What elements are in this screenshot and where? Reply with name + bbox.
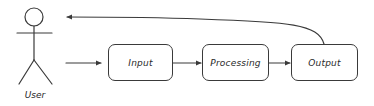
node-processing-label: Processing bbox=[210, 58, 260, 68]
node-output[interactable]: Output bbox=[291, 44, 358, 81]
actor-left-leg bbox=[19, 60, 34, 84]
arrow-output-to-user bbox=[67, 17, 324, 44]
node-processing[interactable]: Processing bbox=[202, 44, 269, 81]
node-input[interactable]: Input bbox=[108, 44, 173, 81]
actor-right-leg bbox=[34, 60, 52, 84]
actor-head bbox=[25, 8, 43, 26]
user-actor-icon bbox=[17, 8, 52, 84]
actor-label: User bbox=[16, 90, 54, 100]
node-output-label: Output bbox=[308, 58, 340, 68]
node-input-label: Input bbox=[128, 58, 152, 68]
